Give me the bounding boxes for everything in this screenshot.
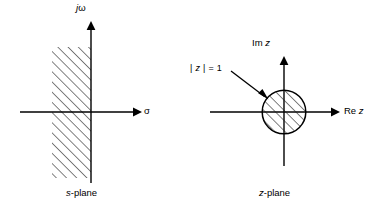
unit-circle-callout-arrow [231,71,269,100]
unit-circle-annotation: | z | = 1 [190,64,222,73]
re-label-z: z [359,105,364,116]
z-plane-unit-disk [262,90,306,134]
callout-arrowhead [258,89,268,100]
s-plane-diagram [20,21,142,183]
re-axis-arrowhead [331,108,340,117]
sigma-axis-arrowhead [133,108,142,117]
s-plane-caption: s-plane [66,188,97,198]
re-z-axis-label: Re z [344,106,364,116]
im-axis-arrowhead [280,56,289,65]
z-plane-diagram [210,56,340,166]
im-label-z: z [265,37,270,48]
jomega-axis-label: jω [76,3,86,13]
figure-container: jω σ s-plane Im z Re z | z | = 1 z-plane [0,0,373,212]
re-label-text: Re [344,105,356,116]
sigma-axis-label: σ [144,106,150,116]
jomega-label-omega: ω [78,2,85,13]
figure-canvas [0,0,373,212]
im-label-text: Im [252,37,263,48]
s-plane-caption-rest: -plane [71,187,97,198]
jomega-axis-arrowhead [87,21,96,30]
im-z-axis-label: Im z [252,38,270,48]
z-plane-caption-rest: -plane [264,187,290,198]
z-plane-caption: z-plane [259,188,290,198]
mod-z-close: | = 1 [203,63,222,73]
